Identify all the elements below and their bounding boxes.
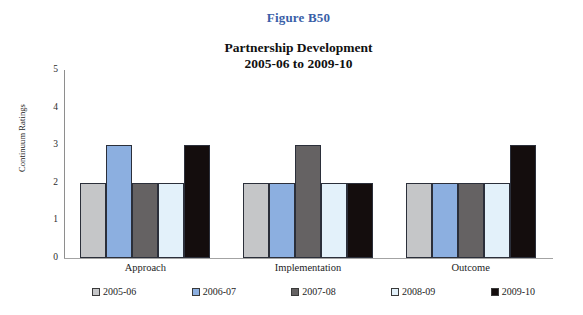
bar-outcome-2009-10[interactable] bbox=[510, 145, 536, 258]
y-tick-3: 3 bbox=[40, 139, 58, 151]
legend-item-2008-09[interactable]: 2008-09 bbox=[391, 286, 435, 297]
x-axis-label-outcome: Outcome bbox=[406, 262, 536, 273]
y-tick-label: 0 bbox=[40, 252, 58, 262]
legend-label: 2009-10 bbox=[502, 286, 535, 297]
y-tick-label: 3 bbox=[40, 139, 58, 149]
y-tick-5: 5 bbox=[40, 64, 58, 76]
chart-legend: 2005-062006-072007-082008-092009-10 bbox=[64, 286, 553, 297]
y-tick-label: 5 bbox=[40, 64, 58, 74]
legend-item-2009-10[interactable]: 2009-10 bbox=[491, 286, 535, 297]
legend-swatch-icon bbox=[491, 288, 499, 296]
bar-outcome-2006-07[interactable] bbox=[432, 183, 458, 258]
bar-group-outcome: Outcome bbox=[406, 69, 536, 258]
chart-plot-area: Continuum Ratings 012345 ApproachImpleme… bbox=[0, 0, 583, 315]
y-tick-1: 1 bbox=[40, 214, 58, 226]
bar-group-implementation: Implementation bbox=[243, 69, 373, 258]
bar-group-approach: Approach bbox=[80, 69, 210, 258]
legend-label: 2005-06 bbox=[103, 286, 136, 297]
legend-swatch-icon bbox=[192, 288, 200, 296]
y-tick-2: 2 bbox=[40, 177, 58, 189]
y-axis-title: Continuum Ratings bbox=[17, 78, 27, 198]
legend-swatch-icon bbox=[391, 288, 399, 296]
bar-approach-2009-10[interactable] bbox=[184, 145, 210, 258]
x-axis-label-approach: Approach bbox=[80, 262, 210, 273]
y-tick-label: 1 bbox=[40, 214, 58, 224]
legend-label: 2006-07 bbox=[203, 286, 236, 297]
x-axis-line bbox=[64, 258, 553, 259]
bar-outcome-2007-08[interactable] bbox=[458, 183, 484, 258]
bar-approach-2005-06[interactable] bbox=[80, 183, 106, 258]
bar-outcome-2005-06[interactable] bbox=[406, 183, 432, 258]
legend-label: 2007-08 bbox=[302, 286, 335, 297]
x-axis-label-implementation: Implementation bbox=[243, 262, 373, 273]
legend-item-2007-08[interactable]: 2007-08 bbox=[291, 286, 335, 297]
legend-item-2006-07[interactable]: 2006-07 bbox=[192, 286, 236, 297]
y-tick-label: 4 bbox=[40, 102, 58, 112]
bar-implementation-2008-09[interactable] bbox=[321, 183, 347, 258]
y-tick-4: 4 bbox=[40, 102, 58, 114]
bar-implementation-2009-10[interactable] bbox=[347, 183, 373, 258]
bar-approach-2007-08[interactable] bbox=[132, 183, 158, 258]
bar-implementation-2007-08[interactable] bbox=[295, 145, 321, 258]
y-tick-0: 0 bbox=[40, 252, 58, 264]
bar-outcome-2008-09[interactable] bbox=[484, 183, 510, 258]
legend-swatch-icon bbox=[291, 288, 299, 296]
y-axis-line bbox=[64, 70, 65, 259]
bar-approach-2008-09[interactable] bbox=[158, 183, 184, 258]
y-tick-label: 2 bbox=[40, 177, 58, 187]
legend-label: 2008-09 bbox=[402, 286, 435, 297]
bar-implementation-2005-06[interactable] bbox=[243, 183, 269, 258]
bar-approach-2006-07[interactable] bbox=[106, 145, 132, 258]
bar-implementation-2006-07[interactable] bbox=[269, 183, 295, 258]
legend-item-2005-06[interactable]: 2005-06 bbox=[92, 286, 136, 297]
legend-swatch-icon bbox=[92, 288, 100, 296]
